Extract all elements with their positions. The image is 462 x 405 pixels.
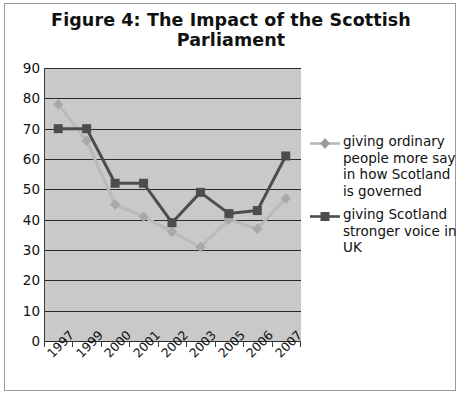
data-point-square (82, 124, 91, 133)
data-point-diamond (110, 199, 120, 209)
series-plot (44, 68, 300, 341)
series-line (58, 129, 286, 223)
data-point-square (196, 188, 205, 197)
legend-item-ordinary-people: giving ordinary people more say in how S… (310, 133, 458, 199)
legend-label-stronger-voice: giving Scotland stronger voice in UK (343, 206, 458, 256)
data-point-square (253, 206, 262, 215)
data-point-square (168, 218, 177, 227)
chart-legend: giving ordinary people more say in how S… (310, 133, 458, 263)
data-point-square (111, 179, 120, 188)
figure-container: Figure 4: The Impact of the Scottish Par… (0, 0, 462, 405)
data-point-square (224, 209, 233, 218)
data-point-square (281, 151, 290, 160)
data-point-square (139, 179, 148, 188)
legend-diamond-marker-icon (310, 135, 340, 152)
legend-item-stronger-voice: giving Scotland stronger voice in UK (310, 206, 458, 256)
legend-label-ordinary-people: giving ordinary people more say in how S… (343, 133, 458, 199)
x-axis-tick (44, 341, 45, 347)
legend-square-marker-icon (310, 208, 340, 225)
data-point-square (54, 124, 63, 133)
